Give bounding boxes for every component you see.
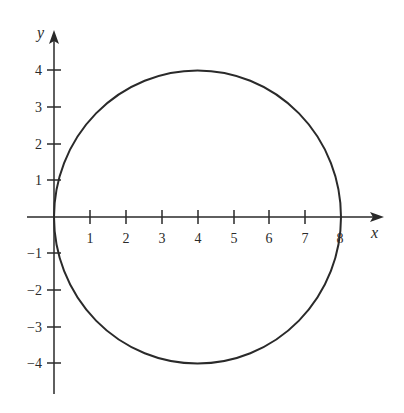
y-tick-label: −4 [27,356,42,371]
y-tick-label: 3 [35,100,42,115]
x-tick-label: 4 [195,231,202,246]
y-tick-label: −1 [27,246,42,261]
y-axis-label: y [35,24,45,42]
x-tick-label: 2 [123,231,130,246]
circle-diagram: 1 2 3 4 5 6 7 8 4 3 2 1 −1 −2 −3 −4 x y [0,0,404,413]
y-tick-label: 1 [35,173,42,188]
y-tick-label: 4 [35,63,42,78]
x-tick-label: 6 [266,231,273,246]
x-tick-label: 5 [231,231,238,246]
y-tick-label: 2 [35,137,42,152]
x-axis-label: x [370,224,378,241]
x-tick-label: 1 [87,231,94,246]
y-tick-label: −3 [27,320,42,335]
y-tick-label: −2 [27,283,42,298]
x-tick-label: 8 [337,231,344,246]
x-tick-label: 3 [159,231,166,246]
x-tick-label: 7 [302,231,309,246]
